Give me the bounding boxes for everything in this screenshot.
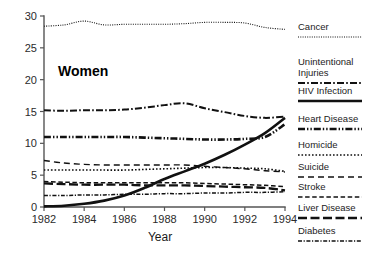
legend-label: Liver Disease (298, 202, 356, 213)
y-tick-label: 0 (31, 201, 37, 213)
series-line-liver-disease (44, 183, 285, 190)
legend-item-unintentional-injuries[interactable]: UnintentionalInjuries (298, 56, 362, 83)
legend-item-diabetes[interactable]: Diabetes (298, 225, 362, 241)
legend-label: Cancer (298, 21, 329, 32)
y-tick-label: 10 (25, 137, 37, 149)
chart-legend: CancerUnintentionalInjuriesHIV Infection… (298, 21, 362, 241)
series-line-heart-disease (44, 124, 285, 139)
y-tick-label: 5 (31, 169, 37, 181)
x-tick-label: 1990 (192, 213, 216, 225)
chart-series-lines (44, 21, 285, 206)
series-line-diabetes (44, 192, 285, 196)
line-chart: 0510152025301982198419861988199019921994… (0, 0, 369, 256)
legend-item-suicide[interactable]: Suicide (298, 161, 362, 177)
legend-label: Diabetes (298, 225, 336, 236)
legend-item-heart-disease[interactable]: Heart Disease (298, 113, 362, 129)
series-line-unintentional-injuries (44, 103, 285, 118)
series-line-cancer (44, 21, 285, 29)
legend-label: Stroke (298, 181, 325, 192)
y-tick-label: 30 (25, 10, 37, 22)
chart-figure: 0510152025301982198419861988199019921994… (0, 0, 369, 256)
legend-label: HIV Infection (298, 85, 352, 96)
legend-label: Homicide (298, 139, 338, 150)
legend-item-liver-disease[interactable]: Liver Disease (298, 202, 362, 218)
y-tick-label: 20 (25, 74, 37, 86)
legend-label: Unintentional (298, 56, 353, 67)
y-tick-label: 15 (25, 106, 37, 118)
panel-title: Women (58, 63, 108, 79)
x-tick-label: 1992 (233, 213, 257, 225)
legend-label: Heart Disease (298, 113, 358, 124)
legend-label: Injuries (298, 67, 329, 78)
x-tick-label: 1984 (72, 213, 96, 225)
legend-item-hiv-infection[interactable]: HIV Infection (298, 85, 362, 101)
x-tick-label: 1988 (152, 213, 176, 225)
chart-axes (40, 16, 285, 211)
y-tick-label: 25 (25, 42, 37, 54)
legend-label: Suicide (298, 161, 329, 172)
x-tick-label: 1986 (112, 213, 136, 225)
x-tick-label: 1994 (273, 213, 297, 225)
legend-item-stroke[interactable]: Stroke (298, 181, 362, 197)
x-axis-title: Year (148, 230, 172, 244)
x-tick-label: 1982 (32, 213, 56, 225)
legend-item-cancer[interactable]: Cancer (298, 21, 362, 37)
legend-item-homicide[interactable]: Homicide (298, 139, 362, 155)
